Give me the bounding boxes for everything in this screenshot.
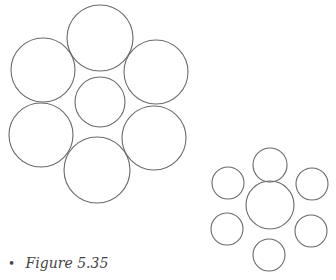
outer-circle-lower-right [122, 106, 186, 170]
figure-diagram [0, 0, 336, 280]
outer-circle-upper-left [212, 167, 244, 199]
outer-circle-top [67, 5, 133, 71]
large-outer-cluster [9, 5, 188, 203]
outer-circle-upper-left [11, 38, 75, 102]
center-circle [75, 77, 125, 127]
outer-circle-lower-left [211, 213, 243, 245]
bullet-icon: • [8, 257, 15, 271]
outer-circle-lower-left [9, 103, 73, 167]
outer-circle-top [253, 148, 287, 182]
outer-circle-bottom [64, 137, 130, 203]
center-circle [246, 181, 294, 229]
caption-text: Figure 5.35 [26, 255, 109, 271]
outer-circle-upper-right [296, 168, 328, 200]
figure-caption: • Figure 5.35 [8, 255, 108, 271]
outer-circle-upper-right [124, 40, 188, 104]
outer-circle-bottom [253, 239, 285, 271]
small-outer-cluster [211, 148, 328, 271]
outer-circle-lower-right [295, 215, 327, 247]
